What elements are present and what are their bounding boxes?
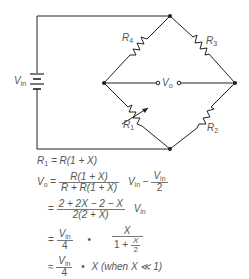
bottom-wire [37, 91, 170, 149]
r4-label: R4 [122, 33, 133, 44]
vo-label: Vo [162, 78, 173, 89]
vo-right-terminal [177, 81, 181, 85]
equation-step-2: = 2 + 2X − 2 − X2(2 + X) Vin [48, 199, 146, 220]
battery-icon [30, 74, 44, 91]
resistor-r3-icon [170, 16, 235, 83]
r2-label: R2 [207, 123, 218, 134]
r3-label: R3 [206, 36, 217, 47]
resistor-r2-icon [170, 83, 235, 149]
r1-label: R1 [123, 120, 134, 131]
resistor-r1-variable-icon [104, 83, 170, 149]
equation-approximation: ≈ Vin4 • X (when X ≪ 1) [48, 256, 162, 278]
vin-label: Vin [14, 76, 26, 87]
equation-vo: Vo = R(1 + X)R + R(1 + X) Vin − Vin2 [37, 171, 168, 193]
equation-step-3: = Vin4 • X1 + X2 [48, 226, 143, 254]
vo-left-terminal [156, 81, 160, 85]
bridge-circuit [0, 0, 249, 160]
equation-r1: R1 = R(1 + X) [37, 156, 97, 167]
resistor-r4-icon [104, 16, 170, 83]
top-wire [37, 16, 170, 73]
